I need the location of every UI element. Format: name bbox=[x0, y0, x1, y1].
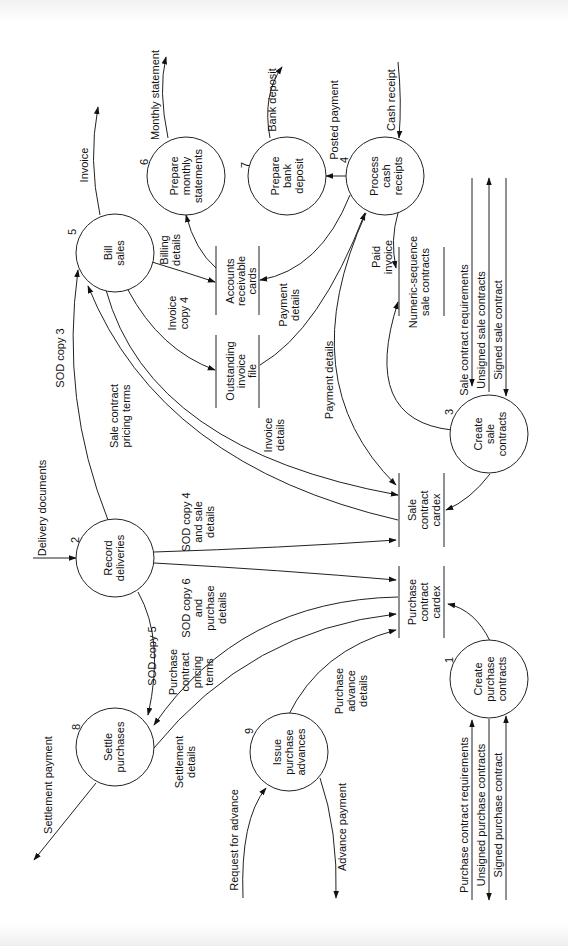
svg-text:deposit: deposit bbox=[293, 158, 305, 193]
flow-3-to-sc bbox=[446, 474, 490, 510]
label-sod6-2: and bbox=[192, 599, 204, 617]
svg-text:statements: statements bbox=[192, 149, 204, 203]
label-invoice-copy4-2: copy 4 bbox=[178, 297, 190, 329]
svg-text:Bill: Bill bbox=[102, 246, 114, 261]
label-billing-details-2: details bbox=[170, 234, 182, 266]
svg-text:9: 9 bbox=[243, 728, 255, 734]
process-4-process-cash-receipts: 4 Process cash receipts bbox=[338, 137, 424, 215]
flow-sod-copy3 bbox=[73, 270, 108, 520]
process-3-create-sale-contracts: 3 Create sale contracts bbox=[443, 395, 528, 473]
label-signed-sale: Signed sale contract bbox=[492, 280, 504, 380]
svg-text:Create: Create bbox=[472, 662, 484, 695]
svg-text:sale contracts: sale contracts bbox=[419, 248, 431, 316]
svg-text:contract: contract bbox=[418, 582, 430, 621]
label-purchase-pricing-4: terms bbox=[203, 658, 215, 686]
svg-text:Purchase: Purchase bbox=[406, 579, 418, 625]
label-invoice-copy4: Invoice bbox=[166, 296, 178, 331]
flow-advance-payment bbox=[320, 778, 336, 898]
label-settlement-details: Settlement bbox=[173, 736, 185, 789]
label-sale-pricing: Sale contract bbox=[108, 384, 120, 448]
store-accounts-receivable: Accounts receivable cards bbox=[216, 246, 259, 315]
label-posted-payment: Posted payment bbox=[328, 80, 340, 160]
process-5-bill-sales: 5 Bill sales bbox=[66, 214, 154, 292]
process-2-record-deliveries: 2 Record deliveries bbox=[69, 519, 154, 597]
flow-ar-to-6 bbox=[186, 215, 216, 268]
flow-1-to-pc bbox=[448, 604, 490, 641]
label-sod4-2: and sale bbox=[192, 501, 204, 543]
flow-paid-invoice bbox=[393, 213, 398, 268]
label-sod-copy3: SOD copy 3 bbox=[54, 328, 66, 387]
label-sod6: SOD copy 6 bbox=[180, 578, 192, 637]
svg-text:contracts: contracts bbox=[496, 656, 508, 701]
flow-oi-to-4 bbox=[260, 213, 365, 365]
svg-text:Record: Record bbox=[102, 540, 114, 575]
label-invoice-details: Invoice bbox=[262, 418, 274, 453]
label-payment-details-ar-2: details bbox=[289, 289, 301, 321]
label-settlement-payment: Settlement payment bbox=[42, 736, 54, 834]
data-flow-diagram: Accounts receivable cards Outstanding in… bbox=[0, 0, 568, 946]
svg-text:purchases: purchases bbox=[114, 721, 126, 772]
svg-text:8: 8 bbox=[70, 724, 82, 730]
svg-text:cardex: cardex bbox=[430, 585, 442, 619]
flow-sod-copy6 bbox=[154, 563, 396, 580]
svg-text:receipts: receipts bbox=[392, 156, 404, 195]
svg-text:cardex: cardex bbox=[430, 493, 442, 527]
svg-text:7: 7 bbox=[239, 162, 251, 168]
flow-invoice bbox=[93, 107, 100, 215]
label-purchase-pricing-2: contract bbox=[179, 652, 191, 691]
svg-text:cash: cash bbox=[380, 164, 392, 187]
svg-text:sale: sale bbox=[484, 424, 496, 444]
svg-text:Issue: Issue bbox=[271, 739, 283, 765]
svg-text:file: file bbox=[246, 364, 258, 378]
svg-text:1: 1 bbox=[443, 657, 455, 663]
svg-text:Prepare: Prepare bbox=[269, 156, 281, 195]
label-purchase-advance-details-3: details bbox=[357, 675, 369, 707]
svg-text:monthly: monthly bbox=[180, 156, 192, 195]
label-sod4: SOD copy 4 bbox=[180, 492, 192, 551]
label-sod6-4: details bbox=[216, 592, 228, 624]
svg-text:3: 3 bbox=[443, 409, 455, 415]
label-sod5: SOD copy 5 bbox=[146, 626, 158, 685]
flow-cash-receipt bbox=[398, 62, 400, 138]
svg-text:6: 6 bbox=[138, 159, 150, 165]
process-8-settle-purchases: 8 Settle purchases bbox=[70, 708, 154, 786]
label-monthly-statement: Monthly statement bbox=[149, 50, 161, 140]
process-9-issue-purchase-advances: 9 Issue purchase advances bbox=[243, 713, 328, 791]
store-sale-contract-cardex: Sale contract cardex bbox=[399, 473, 444, 547]
svg-text:sales: sales bbox=[114, 240, 126, 266]
label-purchase-pricing-3: pricing bbox=[191, 656, 203, 688]
svg-text:contract: contract bbox=[418, 490, 430, 529]
label-sale-pricing-2: pricing terms bbox=[120, 384, 132, 447]
label-purchase-pricing: Purchase bbox=[167, 649, 179, 695]
label-sale-req: Sale contract requirements bbox=[458, 264, 470, 396]
svg-text:5: 5 bbox=[66, 229, 78, 235]
store-outstanding-invoice: Outstanding invoice file bbox=[216, 335, 259, 408]
svg-text:Create: Create bbox=[472, 417, 484, 450]
label-signed-purchase: Signed purchase contract bbox=[492, 753, 504, 878]
label-cash-receipt: Cash receipt bbox=[385, 69, 397, 131]
processes: 5 Bill sales 6 Prepare monthly statement… bbox=[66, 137, 528, 791]
svg-text:advances: advances bbox=[295, 728, 307, 776]
flow-monthly-statement bbox=[162, 57, 168, 138]
label-sod4-3: details bbox=[204, 506, 216, 538]
label-invoice-details-2: details bbox=[274, 419, 286, 451]
store-numeric-sequence: Numeric-sequence sale contracts bbox=[399, 236, 444, 328]
label-bank-deposit: Bank deposit bbox=[266, 68, 278, 132]
svg-text:Prepare: Prepare bbox=[168, 156, 180, 195]
label-request-for-advance: Request for advance bbox=[228, 789, 240, 891]
label-delivery-documents: Delivery documents bbox=[36, 459, 48, 556]
label-purchase-advance-details-2: advance bbox=[345, 670, 357, 712]
svg-text:Settle: Settle bbox=[102, 733, 114, 761]
label-sod6-3: purchase bbox=[204, 585, 216, 630]
svg-text:contracts: contracts bbox=[496, 411, 508, 456]
svg-text:deliveries: deliveries bbox=[114, 534, 126, 581]
svg-text:Numeric-sequence: Numeric-sequence bbox=[407, 236, 419, 328]
label-paid-invoice-2: invoice bbox=[382, 240, 394, 274]
label-advance-payment: Advance payment bbox=[336, 783, 348, 871]
svg-text:Process: Process bbox=[368, 156, 380, 196]
label-settlement-details-2: details bbox=[185, 746, 197, 778]
label-purchase-advance-details: Purchase bbox=[333, 668, 345, 714]
svg-text:2: 2 bbox=[69, 537, 81, 543]
diagram-canvas: Accounts receivable cards Outstanding in… bbox=[0, 0, 568, 946]
svg-text:purchase: purchase bbox=[484, 656, 496, 701]
